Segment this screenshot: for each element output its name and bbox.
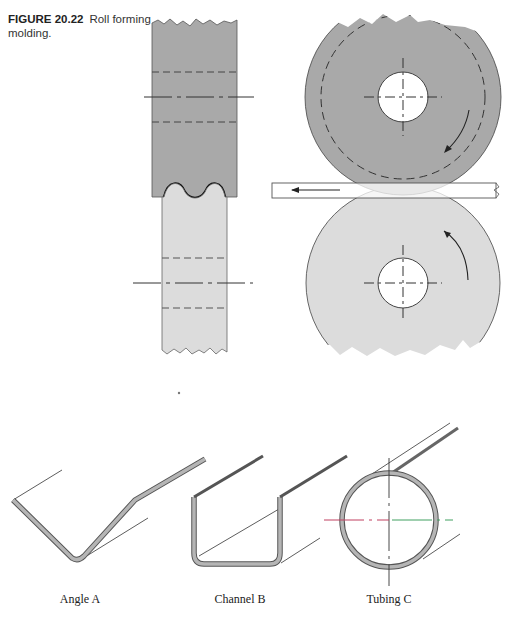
lower-roll-side bbox=[133, 184, 253, 354]
metal-strip bbox=[272, 183, 499, 198]
upper-roll-front bbox=[305, 0, 501, 195]
roll-forming-diagram bbox=[0, 0, 515, 617]
angle-a-label: Angle A bbox=[30, 592, 130, 607]
upper-roll-side bbox=[144, 19, 254, 198]
channel-b-label: Channel B bbox=[190, 592, 290, 607]
lower-roll-front bbox=[306, 186, 500, 380]
angle-a-profile bbox=[13, 459, 205, 560]
tubing-c-label: Tubing C bbox=[339, 592, 439, 607]
tubing-c-profile bbox=[324, 423, 460, 586]
channel-b-profile bbox=[194, 456, 347, 564]
